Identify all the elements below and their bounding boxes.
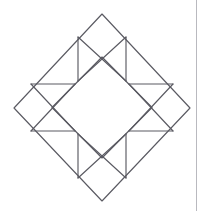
- page-background: [0, 0, 202, 211]
- figure-canvas: Geometric Diamond Star Figure Line drawi…: [0, 0, 202, 211]
- geometric-diamond-star-figure: [0, 0, 202, 211]
